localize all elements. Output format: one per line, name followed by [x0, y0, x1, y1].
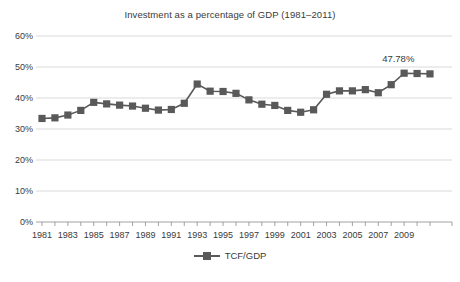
data-point-marker [90, 99, 97, 106]
data-point-marker [194, 80, 201, 87]
data-point-marker [181, 100, 188, 107]
data-point-annotation: 47.78% [382, 53, 414, 64]
data-point-marker [142, 105, 149, 112]
data-point-marker [155, 106, 162, 113]
data-point-marker [219, 88, 226, 95]
data-point-marker [310, 106, 317, 113]
y-axis-tick-label: 50% [15, 62, 33, 72]
data-point-marker [401, 70, 408, 77]
data-point-marker [64, 111, 71, 118]
data-point-marker [336, 87, 343, 94]
data-point-marker [38, 115, 45, 122]
chart-container: Investment as a percentage of GDP (1981–… [0, 0, 460, 282]
data-point-marker [375, 89, 382, 96]
legend-marker-icon [194, 251, 220, 260]
y-axis-tick-label: 10% [15, 186, 33, 196]
data-point-marker [129, 102, 136, 109]
data-point-marker [168, 106, 175, 113]
data-point-marker [258, 101, 265, 108]
x-axis-tick-label: 1989 [135, 230, 155, 240]
data-point-marker [362, 86, 369, 93]
x-axis-tick-label: 1985 [84, 230, 104, 240]
chart-legend: TCF/GDP [0, 250, 460, 261]
x-axis-tick-label: 1997 [239, 230, 259, 240]
data-point-marker [323, 91, 330, 98]
data-point-marker [426, 70, 433, 77]
data-point-marker [284, 107, 291, 114]
data-series-tcf-gdp [38, 70, 433, 122]
x-axis-tick-label: 1983 [58, 230, 78, 240]
legend-item-label: TCF/GDP [225, 250, 267, 261]
data-point-marker [388, 81, 395, 88]
y-axis-tick-label: 30% [15, 124, 33, 134]
data-point-marker [51, 114, 58, 121]
x-axis-tick-label: 1999 [265, 230, 285, 240]
x-axis-tick-label: 2009 [394, 230, 414, 240]
data-point-marker [413, 70, 420, 77]
data-point-marker [297, 109, 304, 116]
data-point-marker [116, 102, 123, 109]
data-point-marker [77, 107, 84, 114]
x-axis-tick-label: 1995 [213, 230, 233, 240]
x-axis-ticks [42, 222, 452, 226]
data-point-marker [245, 96, 252, 103]
x-axis-tick-labels: 1981198319851987198919911993199519971999… [32, 230, 414, 240]
data-point-marker [349, 87, 356, 94]
data-point-marker [207, 88, 214, 95]
y-axis-tick-label: 0% [20, 217, 33, 227]
x-axis-tick-label: 1991 [161, 230, 181, 240]
x-axis-tick-label: 1981 [32, 230, 52, 240]
data-point-marker [271, 102, 278, 109]
y-axis-tick-label: 40% [15, 93, 33, 103]
data-point-marker [232, 90, 239, 97]
y-axis-tick-labels: 0%10%20%30%40%50%60% [15, 31, 33, 227]
y-axis-tick-label: 20% [15, 155, 33, 165]
x-axis-tick-label: 2005 [342, 230, 362, 240]
x-axis-tick-label: 2001 [291, 230, 311, 240]
chart-plot-area: 0%10%20%30%40%50%60% 1981198319851987198… [0, 0, 460, 282]
x-axis-tick-label: 1993 [187, 230, 207, 240]
y-axis-tick-label: 60% [15, 31, 33, 41]
x-axis-tick-label: 1987 [110, 230, 130, 240]
x-axis-tick-label: 2007 [368, 230, 388, 240]
x-axis-tick-label: 2003 [317, 230, 337, 240]
data-point-marker [103, 100, 110, 107]
